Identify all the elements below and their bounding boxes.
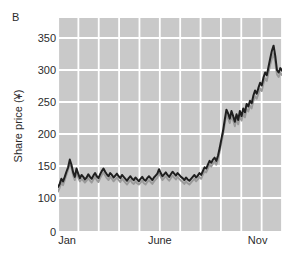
x-tick-june: June — [148, 234, 172, 246]
x-tick-jan: Jan — [58, 234, 76, 246]
plot-area — [58, 18, 282, 232]
y-tick-250: 250 — [26, 97, 56, 108]
data-series-layer — [58, 46, 282, 192]
y-axis-tick-labels: 0100150200250300350 — [26, 0, 56, 266]
y-axis-label: Share price (¥) — [12, 56, 24, 196]
y-tick-150: 150 — [26, 161, 56, 172]
plot-svg — [58, 18, 282, 232]
panel-label: B — [12, 11, 20, 23]
figure-panel-b: B Share price (¥) 0100150200250300350 Ja… — [0, 0, 286, 266]
horizontal-gridlines — [58, 38, 282, 232]
y-tick-350: 350 — [26, 33, 56, 44]
x-axis-tick-labels: JanJuneNov — [0, 234, 286, 254]
vertical-gridlines — [58, 18, 282, 232]
y-tick-100: 100 — [26, 193, 56, 204]
series-light — [58, 53, 282, 191]
y-tick-200: 200 — [26, 129, 56, 140]
x-tick-nov: Nov — [248, 234, 268, 246]
y-tick-300: 300 — [26, 65, 56, 76]
